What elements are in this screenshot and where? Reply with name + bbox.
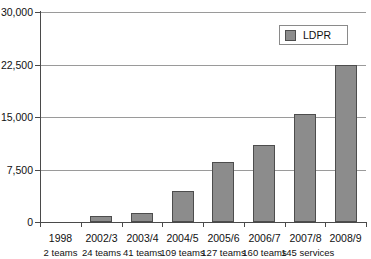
bar xyxy=(90,216,112,222)
y-axis-label: 30,000 xyxy=(0,7,33,18)
x-axis-tick xyxy=(122,222,123,227)
bar xyxy=(294,114,316,222)
x-axis-label: 2002/3 xyxy=(81,233,122,244)
x-axis-label: 2004/5 xyxy=(162,233,203,244)
x-axis-tick xyxy=(81,222,82,227)
y-axis-label: 15,000 xyxy=(0,112,33,123)
bar xyxy=(131,213,153,222)
y-axis-label: 22,500 xyxy=(0,60,33,71)
x-axis-label: 1998 xyxy=(40,233,81,244)
legend: LDPR xyxy=(279,25,348,45)
x-axis-label: 2003/4 xyxy=(122,233,163,244)
bar-chart: 07,50015,00022,50030,000 19982002/32003/… xyxy=(0,0,371,259)
x-axis-tick xyxy=(325,222,326,227)
y-axis-label: 0 xyxy=(0,217,33,228)
x-axis-tick xyxy=(285,222,286,227)
x-axis-tick xyxy=(244,222,245,227)
bar xyxy=(335,65,357,222)
x-axis-tick xyxy=(366,222,367,227)
bar xyxy=(172,191,194,222)
x-axis-label: 2006/7 xyxy=(244,233,285,244)
x-axis-tick xyxy=(162,222,163,227)
y-axis-label: 7,500 xyxy=(0,165,33,176)
x-axis-label: 2007/8 xyxy=(285,233,326,244)
bar xyxy=(253,145,275,222)
legend-label-ldpr: LDPR xyxy=(303,30,331,41)
bar xyxy=(212,162,234,222)
x-axis-label: 2005/6 xyxy=(203,233,244,244)
x-axis-tick xyxy=(40,222,41,227)
x-axis-label: 2008/9 xyxy=(325,233,366,244)
ldpr-swatch xyxy=(285,30,296,41)
x-axis-tick xyxy=(203,222,204,227)
x-axis-sublabel: 145 services xyxy=(281,248,330,258)
